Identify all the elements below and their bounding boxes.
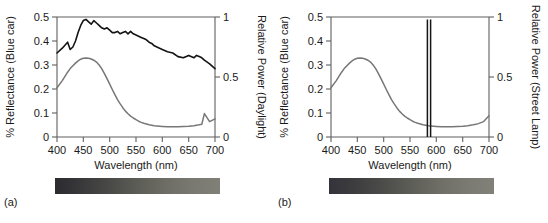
panel-b-ytick-right-1: 0.5	[497, 71, 512, 83]
panel-a-label: (a)	[4, 196, 17, 208]
panel-a-ylabel-left: % Reflectance (Blue car)	[4, 16, 16, 138]
panel-a-xtick-2: 500	[101, 144, 119, 156]
panel-b: 0.5 0.4 0.3 0.2 0.1 0 1 0.5 0	[274, 0, 548, 223]
panel-a-curves	[57, 19, 215, 126]
panel-a-xticks: 400 450 500 550 600 650 700	[48, 137, 224, 156]
panel-a-ytick-left-3: 0.3	[34, 59, 49, 71]
curve-daylight	[57, 19, 215, 68]
panel-b-yticks-left: 0.5 0.4 0.3 0.2 0.1 0	[308, 11, 331, 143]
panel-a-ylabel-right: Relative Power (Daylight)	[256, 15, 268, 139]
panel-b-xtick-0: 400	[322, 144, 340, 156]
panel-b-yticks-right: 1 0.5 0	[489, 11, 512, 143]
panel-a: 0.5 0.4 0.3 0.2 0.1 0 1 0.5 0	[0, 0, 274, 223]
panel-b-ylabel-left: % Reflectance (Blue car)	[278, 16, 290, 138]
panel-b-ytick-left-1: 0.1	[308, 107, 323, 119]
panel-b-ytick-left-5: 0.5	[308, 11, 323, 23]
panel-b-xticks: 400 450 500 550 600 650 700	[322, 137, 498, 156]
panel-b-svg: 0.5 0.4 0.3 0.2 0.1 0 1 0.5 0	[274, 0, 548, 175]
panel-b-ytick-right-2: 1	[497, 11, 503, 23]
curve-reflectance	[331, 58, 489, 127]
panel-a-xtick-4: 600	[153, 144, 171, 156]
curve-reflectance	[57, 58, 215, 127]
panel-b-ytick-left-4: 0.4	[308, 35, 323, 47]
panel-a-svg: 0.5 0.4 0.3 0.2 0.1 0 1 0.5 0	[0, 0, 274, 175]
panel-b-ytick-left-3: 0.3	[308, 59, 323, 71]
panel-a-plot: 0.5 0.4 0.3 0.2 0.1 0 1 0.5 0	[0, 0, 274, 175]
panel-b-xtick-2: 500	[375, 144, 393, 156]
panel-b-ylabel-right: Relative Power (Street Lamp)	[530, 5, 542, 149]
panel-a-xtick-3: 550	[127, 144, 145, 156]
panel-a-ytick-left-4: 0.4	[34, 35, 49, 47]
panel-a-xtick-5: 650	[180, 144, 198, 156]
panel-b-ytick-left-2: 0.2	[308, 83, 323, 95]
panel-b-ytick-left-0: 0	[317, 131, 323, 143]
panel-b-xtick-4: 600	[427, 144, 445, 156]
panel-a-xtick-6: 700	[206, 144, 224, 156]
panel-b-curves	[331, 20, 489, 138]
panel-b-xtick-6: 700	[480, 144, 498, 156]
panel-b-xtick-1: 450	[348, 144, 366, 156]
panel-a-ytick-right-2: 1	[223, 11, 229, 23]
panel-a-xtick-0: 400	[48, 144, 66, 156]
panel-a-yticks-left: 0.5 0.4 0.3 0.2 0.1 0	[34, 11, 57, 143]
panel-b-xtick-5: 650	[454, 144, 472, 156]
panel-b-label: (b)	[278, 196, 291, 208]
panel-b-xlabel: Wavelength (nm)	[368, 159, 451, 171]
panel-a-ytick-left-1: 0.1	[34, 107, 49, 119]
panel-b-color-bar	[329, 178, 494, 194]
panel-b-xtick-3: 550	[401, 144, 419, 156]
panel-a-ytick-right-0: 0	[223, 131, 229, 143]
panel-a-color-bar	[55, 178, 220, 194]
panel-b-bar-svg	[329, 178, 494, 194]
panel-b-ytick-right-0: 0	[497, 131, 503, 143]
panel-a-xlabel: Wavelength (nm)	[94, 159, 177, 171]
spectral-figure: 0.5 0.4 0.3 0.2 0.1 0 1 0.5 0	[0, 0, 548, 223]
panel-a-ytick-left-5: 0.5	[34, 11, 49, 23]
panel-a-ytick-right-1: 0.5	[223, 71, 238, 83]
panel-a-bar-svg	[55, 178, 220, 194]
panel-a-xtick-1: 450	[74, 144, 92, 156]
panel-a-ytick-left-0: 0	[43, 131, 49, 143]
panel-a-yticks-right: 1 0.5 0	[215, 11, 238, 143]
panel-b-plot: 0.5 0.4 0.3 0.2 0.1 0 1 0.5 0	[274, 0, 548, 175]
panel-a-ytick-left-2: 0.2	[34, 83, 49, 95]
